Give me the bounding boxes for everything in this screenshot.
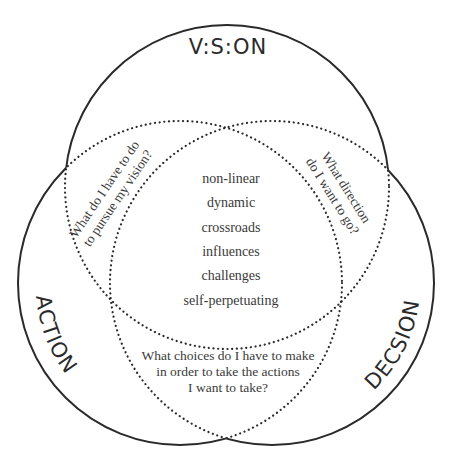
question-line: in order to take the actions [156,364,300,379]
center-word: crossroads [201,220,260,235]
center-word: dynamic [207,195,255,210]
decision-circle [110,121,434,445]
question-vision-action: What do I have to do to pursue my vision… [66,138,155,250]
question-line: What choices do I have to make [141,348,314,363]
center-word: non-linear [202,171,260,186]
vision-label: V:S:ON [189,35,267,59]
center-word: influences [202,244,260,259]
decision-label: DECSION [360,297,424,394]
center-word: challenges [201,268,260,283]
question-line: I want to take? [188,380,268,395]
venn-diagram: V:S:ON ACTION DECSION non-linear dynamic… [0,0,457,468]
question-action-decision: What choices do I have to make in order … [141,348,314,395]
decision-label-text: DECSION [360,297,424,394]
center-word-list: non-linear dynamic crossroads influences… [184,171,279,308]
center-word: self-perpetuating [184,293,279,308]
action-label: ACTION [31,294,82,378]
action-label-text: ACTION [31,294,82,378]
